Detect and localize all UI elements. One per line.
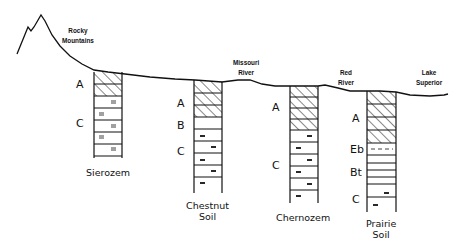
horizon-label-prairie-a: A (352, 113, 360, 124)
landmark-line: Lake (416, 69, 442, 77)
landmark-line: River (338, 79, 354, 87)
horizon-label-prairie-eb: Eb (350, 144, 364, 155)
horizon-label-sierozem-c: C (76, 118, 84, 129)
horizon-label-chernozem-c: C (272, 160, 280, 171)
landmark-line: Rocky (62, 27, 94, 35)
soil-name-sierozem: Sierozem (86, 168, 130, 179)
horizon-label-prairie-bt: Bt (350, 167, 362, 178)
profile-prairie-column (367, 91, 396, 212)
horizon-label-prairie-c: C (352, 194, 360, 205)
landmark-missouri-river: Missouri River (233, 59, 259, 76)
landmark-line: Red (338, 69, 354, 77)
landmark-line: River (233, 69, 259, 77)
horizon-label-chestnut-c: C (177, 146, 185, 157)
landmark-rocky-mountains: Rocky Mountains (62, 27, 94, 44)
horizon-label-chernozem-a: A (272, 102, 280, 113)
soil-name-chestnut: Chestnut Soil (186, 201, 229, 223)
soil-name-line: Sierozem (86, 168, 130, 179)
soil-transect-diagram: Rocky Mountains Missouri River Red River… (0, 0, 460, 246)
soil-name-line: Soil (366, 230, 396, 241)
landmark-line: Missouri (233, 59, 259, 67)
horizon-label-chestnut-b: B (177, 120, 185, 131)
soil-name-prairie: Prairie Soil (366, 219, 396, 241)
soil-name-line: Chernozem (276, 213, 330, 224)
horizon-label-sierozem-a: A (76, 79, 84, 90)
landmark-lake-superior: Lake Superior (416, 69, 442, 86)
profile-chestnut-column (194, 80, 222, 193)
profile-sierozem-column (94, 72, 122, 158)
soil-name-chernozem: Chernozem (276, 213, 330, 224)
landmark-line: Superior (416, 79, 442, 87)
landmark-red-river: Red River (338, 69, 354, 86)
landmark-line: Mountains (62, 37, 94, 45)
profile-chernozem-column (290, 86, 318, 203)
soil-name-line: Soil (186, 212, 229, 223)
horizon-label-chestnut-a: A (177, 98, 185, 109)
